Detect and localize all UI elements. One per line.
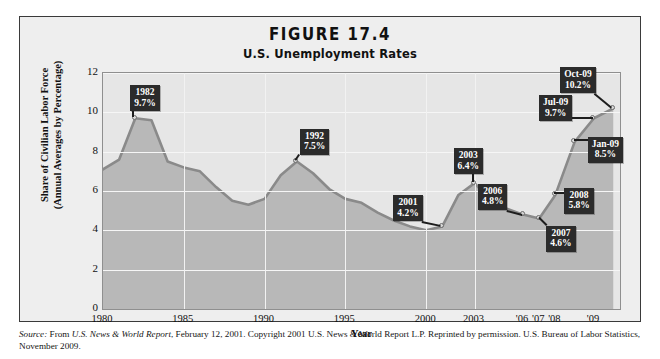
callout-label: 2003 <box>458 150 479 161</box>
y-axis-title: Share of Civilian Labor Force (Annual Av… <box>38 35 64 235</box>
data-callout: Jan-098.5% <box>588 137 623 163</box>
source-label: Source: <box>19 329 47 339</box>
data-callout: 20036.4% <box>454 148 483 174</box>
y-axis-tick-labels: 024681012 <box>72 72 98 310</box>
callout-leader-line <box>572 117 593 119</box>
gridline-vertical <box>475 73 476 309</box>
data-callout: 20074.6% <box>546 226 575 252</box>
callout-value: 6.4% <box>458 161 479 172</box>
callout-label: 1992 <box>304 131 325 142</box>
figure-title: U.S. Unemployment Rates <box>20 47 640 61</box>
gridline-horizontal <box>103 73 620 74</box>
data-callout: 20014.2% <box>393 195 422 221</box>
y-axis-tick-label: 6 <box>76 183 98 195</box>
x-axis-tick-label: '06 <box>516 313 528 324</box>
x-axis-tick-label: 1985 <box>172 313 193 324</box>
data-callout: 20064.8% <box>478 184 507 210</box>
source-note: Source: From U.S. News & World Report, F… <box>19 329 645 352</box>
y-axis-tick-label: 4 <box>76 222 98 234</box>
data-callout: 19829.7% <box>130 85 159 111</box>
y-axis-title-line1: Share of Civilian Labor Force <box>39 68 50 202</box>
callout-value: 9.7% <box>543 108 568 119</box>
callout-value: 9.7% <box>134 98 155 109</box>
gridline-vertical <box>265 73 266 309</box>
area-fill <box>103 108 613 309</box>
y-axis-tick-label: 8 <box>76 144 98 156</box>
callout-label: 2001 <box>397 197 418 208</box>
callout-label: 2007 <box>550 228 571 239</box>
data-callout: 20085.8% <box>564 188 593 214</box>
x-axis-tick-label: 2000 <box>415 313 436 324</box>
callout-leader-line <box>472 174 474 182</box>
x-axis-tick-label: 1990 <box>253 313 274 324</box>
y-axis-tick-label: 2 <box>76 262 98 274</box>
gridline-horizontal <box>103 152 620 153</box>
callout-value: 10.2% <box>564 80 591 91</box>
page-bleed-text <box>0 0 660 9</box>
callout-value: 4.2% <box>397 208 418 219</box>
callout-value: 8.5% <box>592 149 619 160</box>
callout-leader-line <box>574 139 588 141</box>
x-axis-tick-label: 2003 <box>463 313 484 324</box>
callout-label: 2006 <box>482 186 503 197</box>
y-axis-tick-label: 10 <box>76 104 98 116</box>
x-axis-tick-label: '09 <box>587 313 599 324</box>
data-callout: 19927.5% <box>300 129 329 155</box>
data-callout: Oct-0910.2% <box>560 67 595 93</box>
y-axis-tick-label: 12 <box>76 65 98 77</box>
callout-label: Jan-09 <box>592 139 619 150</box>
x-axis-tick-labels: 198019851990199520002003'06'07'08'09 <box>102 313 621 329</box>
y-axis-title-line2: (Annual Averages by Percentage) <box>52 61 63 210</box>
y-axis-tick-label: 0 <box>76 301 98 313</box>
callout-value: 4.8% <box>482 196 503 207</box>
callout-label: 2008 <box>568 190 589 201</box>
figure-container: FIGURE 17.4 U.S. Unemployment Rates Shar… <box>19 16 641 322</box>
gridline-vertical <box>184 73 185 309</box>
callout-value: 5.8% <box>568 200 589 211</box>
callout-label: Oct-09 <box>564 69 591 80</box>
callout-leader-line <box>554 192 564 194</box>
gridline-horizontal <box>103 270 620 271</box>
callout-value: 4.6% <box>550 238 571 249</box>
callout-label: Jul-09 <box>543 97 568 108</box>
x-axis-tick-label: 1995 <box>334 313 355 324</box>
gridline-vertical <box>426 73 427 309</box>
x-axis-tick-label: 1980 <box>92 313 113 324</box>
gridline-horizontal <box>103 230 620 231</box>
callout-label: 1982 <box>134 87 155 98</box>
gridline-vertical <box>345 73 346 309</box>
x-axis-tick-label: '07 <box>532 313 544 324</box>
source-text-1: From <box>47 329 72 339</box>
figure-number: FIGURE 17.4 <box>20 23 640 44</box>
callout-value: 7.5% <box>304 141 325 152</box>
gridline-horizontal <box>103 191 620 192</box>
data-callout: Jul-099.7% <box>539 95 572 121</box>
source-publication: U.S. News & World Report <box>72 329 171 339</box>
x-axis-tick-label: '08 <box>548 313 560 324</box>
